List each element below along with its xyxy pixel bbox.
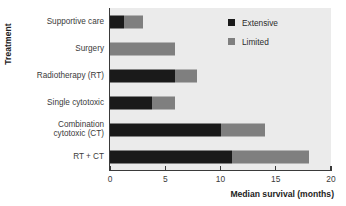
y-axis-category-label: Single cytotoxic xyxy=(16,98,104,108)
bar-segment-limited[interactable] xyxy=(152,96,175,109)
bar-segment-limited[interactable] xyxy=(232,150,309,163)
stacked-bar[interactable] xyxy=(110,123,265,136)
legend-swatch-limited-icon xyxy=(228,38,235,45)
x-axis-tick-label: 20 xyxy=(316,174,346,184)
x-axis-tick-label: 15 xyxy=(261,174,291,184)
x-axis-tick xyxy=(109,166,110,171)
bar-segment-limited[interactable] xyxy=(110,42,175,55)
legend-label-limited: Limited xyxy=(242,37,269,47)
stacked-bar[interactable] xyxy=(110,42,175,55)
stacked-bar[interactable] xyxy=(110,69,197,82)
bar-row: Single cytotoxic xyxy=(0,89,346,116)
x-axis-tick-label: 0 xyxy=(95,174,125,184)
bar-segment-extensive[interactable] xyxy=(110,69,175,82)
legend-swatch-extensive-icon xyxy=(228,19,235,26)
stacked-bar[interactable] xyxy=(110,150,309,163)
y-axis-category-label: Combinationcytotoxic (CT) xyxy=(16,120,104,139)
legend-item-limited[interactable]: Limited xyxy=(228,35,278,48)
bar-row: Radiotherapy (RT) xyxy=(0,62,346,89)
bar-segment-extensive[interactable] xyxy=(110,15,124,28)
bar-row: Supportive care xyxy=(0,8,346,35)
x-axis-tick xyxy=(220,166,221,171)
x-axis-tick xyxy=(275,166,276,171)
bar-segment-extensive[interactable] xyxy=(110,96,152,109)
x-axis-tick xyxy=(330,166,331,171)
legend-label-extensive: Extensive xyxy=(242,18,278,28)
stacked-bar[interactable] xyxy=(110,15,143,28)
chart-legend: Extensive Limited xyxy=(228,16,278,54)
bar-segment-limited[interactable] xyxy=(175,69,197,82)
x-axis-tick xyxy=(165,166,166,171)
bar-row: Combinationcytotoxic (CT) xyxy=(0,116,346,143)
chart-figure: Treatment Supportive careSurgeryRadiothe… xyxy=(0,0,346,206)
x-axis-tick-label: 10 xyxy=(206,174,236,184)
y-axis-category-label: Supportive care xyxy=(16,17,104,27)
bar-segment-limited[interactable] xyxy=(124,15,143,28)
stacked-bar[interactable] xyxy=(110,96,175,109)
y-axis-category-label: RT + CT xyxy=(16,152,104,162)
bar-segment-limited[interactable] xyxy=(221,123,265,136)
x-axis-title: Median survival (months) xyxy=(230,189,334,199)
bar-row: Surgery xyxy=(0,35,346,62)
bar-segment-extensive[interactable] xyxy=(110,150,232,163)
bar-row: RT + CT xyxy=(0,143,346,170)
y-axis-category-label: Radiotherapy (RT) xyxy=(16,71,104,81)
x-axis-tick-label: 5 xyxy=(150,174,180,184)
bar-segment-extensive[interactable] xyxy=(110,123,221,136)
legend-item-extensive[interactable]: Extensive xyxy=(228,16,278,29)
y-axis-category-label: Surgery xyxy=(16,44,104,54)
